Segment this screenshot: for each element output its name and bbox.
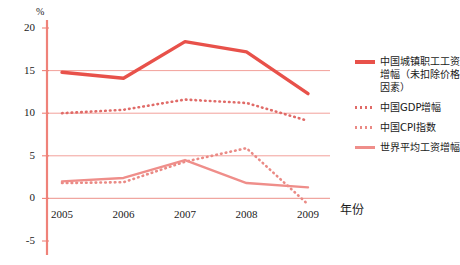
legend-item-0[interactable]: 中国城镇职工工资增幅（未扣除价格因素） <box>355 55 460 94</box>
x-tick-label-2009: 2009 <box>287 208 329 220</box>
y-tick-label-0: 0 <box>5 191 35 203</box>
y-tick-label-10: 10 <box>5 106 35 118</box>
legend-item-1[interactable]: 中国GDP增幅 <box>355 101 460 114</box>
legend-swatch-icon-1 <box>355 102 375 114</box>
x-tick-label-2008: 2008 <box>226 208 268 220</box>
series-line-0 <box>62 42 308 94</box>
chart-legend: 中国城镇职工工资增幅（未扣除价格因素）中国GDP增幅中国CPI指数世界平均工资增… <box>355 55 460 161</box>
chart-root: % 20151050-5 20052006200720082009 年份 中国城… <box>0 0 460 265</box>
x-tick-label-2006: 2006 <box>103 208 145 220</box>
legend-label-3: 世界平均工资增幅 <box>380 141 460 154</box>
legend-item-3[interactable]: 世界平均工资增幅 <box>355 141 460 154</box>
plot-area: % 20151050-5 20052006200720082009 <box>0 0 350 265</box>
x-tick-label-2007: 2007 <box>164 208 206 220</box>
y-tick-label-15: 15 <box>5 64 35 76</box>
y-tick-label-20: 20 <box>5 21 35 33</box>
legend-label-1: 中国GDP增幅 <box>380 101 441 114</box>
series-line-1 <box>62 100 308 121</box>
legend-swatch-icon-0 <box>355 56 375 68</box>
legend-swatch-icon-3 <box>355 142 375 154</box>
legend-swatch-icon-2 <box>355 122 375 134</box>
y-tick-label--5: -5 <box>5 234 35 246</box>
series-line-2 <box>62 148 308 204</box>
x-axis-title: 年份 <box>340 200 364 217</box>
chart-canvas <box>0 0 350 265</box>
legend-item-2[interactable]: 中国CPI指数 <box>355 121 460 134</box>
y-tick-label-5: 5 <box>5 149 35 161</box>
series-line-3 <box>62 160 308 187</box>
x-tick-label-2005: 2005 <box>41 208 83 220</box>
series-group <box>62 42 308 205</box>
legend-label-2: 中国CPI指数 <box>380 121 436 134</box>
legend-label-0: 中国城镇职工工资增幅（未扣除价格因素） <box>380 55 460 94</box>
